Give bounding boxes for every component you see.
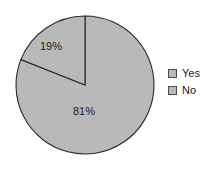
legend-swatch-no [168,86,177,95]
legend-label-yes: Yes [182,68,200,79]
chart-legend: Yes No [168,67,200,96]
legend-item-yes[interactable]: Yes [168,67,200,79]
pie-label-yes: 19% [40,40,62,52]
legend-swatch-yes [168,69,177,78]
pie-graphic [0,0,170,171]
pie-chart: 19% 81% Yes No [0,0,214,171]
legend-item-no[interactable]: No [168,84,200,96]
pie-label-no: 81% [73,105,95,117]
legend-label-no: No [182,85,196,96]
